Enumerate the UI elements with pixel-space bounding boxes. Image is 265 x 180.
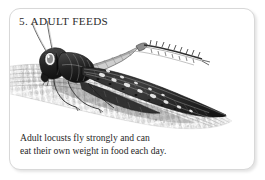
illustration-card: 5. ADULT FEEDS Adult locusts fly strongl…	[9, 8, 255, 170]
caption-line-1: Adult locusts fly strongly and can	[20, 131, 225, 144]
caption-line-2: eat their own weight in food each day.	[20, 144, 225, 157]
page-title: 5. ADULT FEEDS	[19, 15, 108, 27]
caption: Adult locusts fly strongly and can eat t…	[20, 131, 225, 157]
